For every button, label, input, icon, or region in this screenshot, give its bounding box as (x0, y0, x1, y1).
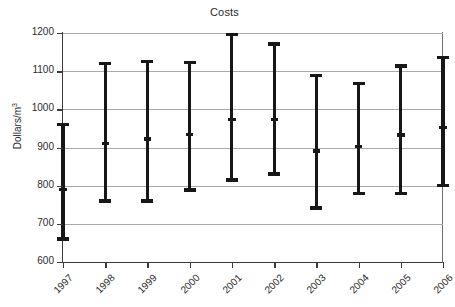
range-bar-stem (273, 44, 276, 174)
range-bar-cap-low (353, 192, 365, 195)
range-bar-cap-high (395, 64, 407, 67)
range-bar-marker-mid (313, 149, 320, 152)
y-axis-title: Dollars/m3 (11, 71, 23, 181)
x-tick-label-2000: 2000 (167, 272, 202, 307)
x-tick-mark (105, 262, 106, 268)
y-tick-mark (57, 109, 63, 110)
range-bar-marker-mid (271, 118, 278, 121)
range-bar-2001 (232, 33, 233, 262)
gridline (63, 186, 443, 187)
x-tick-label-2002: 2002 (251, 272, 286, 307)
y-tick-label: 1100 (14, 64, 54, 75)
range-bar-cap-low (184, 188, 196, 191)
x-tick-mark (401, 262, 402, 268)
range-bar-marker-mid (439, 126, 446, 129)
range-bar-cap-low (310, 206, 322, 209)
x-tick-label-2001: 2001 (209, 272, 244, 307)
gridline (63, 109, 443, 110)
range-bar-cap-low (99, 199, 111, 202)
range-bar-stem (357, 83, 360, 193)
chart-title: Costs (0, 6, 449, 18)
range-bar-stem (61, 125, 64, 240)
range-bar-1997 (63, 33, 64, 262)
range-bar-2002 (274, 33, 275, 262)
range-bar-cap-low (141, 199, 153, 202)
range-bar-cap-low (437, 184, 449, 187)
x-axis-line (62, 262, 444, 263)
range-bar-stem (315, 76, 318, 208)
range-bar-cap-high (99, 62, 111, 65)
y-tick-mark (57, 33, 63, 34)
range-bar-2000 (190, 33, 191, 262)
gridline (63, 148, 443, 149)
x-tick-mark (147, 262, 148, 268)
gridline (63, 33, 443, 34)
x-tick-label-1999: 1999 (125, 272, 160, 307)
y-tick-label: 1000 (14, 102, 54, 113)
range-bar-marker-mid (102, 142, 109, 145)
range-bar-marker-mid (186, 133, 193, 136)
range-bar-marker-mid (228, 118, 235, 121)
x-tick-label-1997: 1997 (40, 272, 75, 307)
range-bar-cap-high (437, 56, 449, 59)
range-bar-cap-high (57, 123, 69, 126)
x-tick-mark (232, 262, 233, 268)
range-bar-cap-low (57, 237, 69, 240)
y-tick-label: 1200 (14, 26, 54, 37)
range-bar-stem (230, 35, 233, 180)
range-bar-1999 (147, 33, 148, 262)
x-tick-mark (63, 262, 64, 268)
y-tick-mark (57, 224, 63, 225)
y-tick-label: 900 (14, 141, 54, 152)
range-bar-stem (399, 66, 402, 194)
range-bar-stem (441, 57, 444, 185)
x-tick-label-2006: 2006 (420, 272, 455, 307)
y-tick-mark (57, 186, 63, 187)
range-bar-stem (188, 62, 191, 189)
range-bar-cap-low (268, 172, 280, 175)
range-bar-cap-high (310, 74, 322, 77)
range-bar-cap-low (226, 178, 238, 181)
range-bar-cap-high (184, 61, 196, 64)
x-tick-mark (274, 262, 275, 268)
range-bar-cap-low (395, 192, 407, 195)
range-bar-2003 (316, 33, 317, 262)
x-tick-mark (359, 262, 360, 268)
x-tick-label-2005: 2005 (378, 272, 413, 307)
range-bar-marker-mid (144, 137, 151, 140)
range-bar-2005 (401, 33, 402, 262)
y-tick-mark (57, 71, 63, 72)
y-tick-label: 700 (14, 217, 54, 228)
range-bar-marker-mid (355, 145, 362, 148)
x-tick-label-2003: 2003 (293, 272, 328, 307)
plot-area (63, 33, 443, 262)
x-tick-label-2004: 2004 (336, 272, 371, 307)
gridline (63, 224, 443, 225)
y-tick-label: 800 (14, 179, 54, 190)
range-bar-cap-high (268, 42, 280, 45)
range-bar-stem (146, 61, 149, 201)
x-tick-mark (190, 262, 191, 268)
range-bar-cap-high (141, 60, 153, 63)
x-tick-mark (316, 262, 317, 268)
x-tick-mark (443, 262, 444, 268)
range-bar-2004 (359, 33, 360, 262)
y-tick-mark (57, 148, 63, 149)
x-tick-label-1998: 1998 (82, 272, 117, 307)
range-bar-2006 (443, 33, 444, 262)
range-bar-cap-high (353, 82, 365, 85)
range-bar-cap-high (226, 33, 238, 36)
range-bar-1998 (105, 33, 106, 262)
gridline (63, 71, 443, 72)
range-bar-marker-mid (397, 133, 404, 136)
range-bar-stem (104, 64, 107, 201)
range-bar-marker-mid (59, 188, 66, 191)
y-tick-label: 600 (14, 255, 54, 266)
